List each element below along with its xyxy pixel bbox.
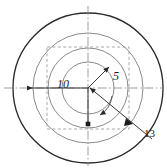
technical-drawing-figure: 10 5 13 xyxy=(0,0,167,168)
dimension-label-10: 10 xyxy=(57,78,69,90)
dimension-label-13: 13 xyxy=(144,128,155,139)
dimension-label-5: 5 xyxy=(113,70,119,82)
drawing-canvas xyxy=(0,0,167,168)
radius-dimension-5-line xyxy=(88,67,109,88)
arc-arrow xyxy=(100,96,112,115)
